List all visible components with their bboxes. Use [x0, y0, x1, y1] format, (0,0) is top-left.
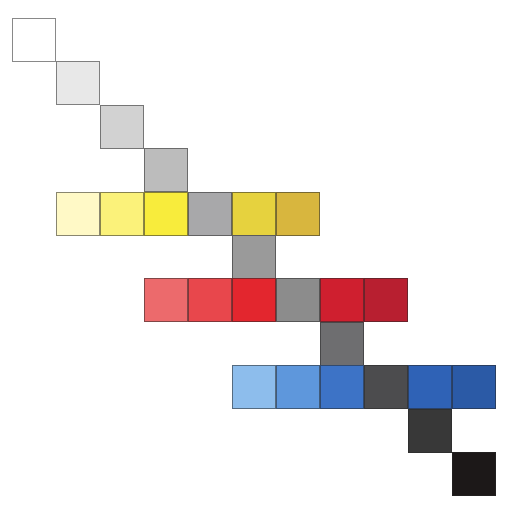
swatch-blue-pure [320, 365, 364, 409]
swatch-gray-3 [144, 148, 188, 192]
swatch-yellow-tint-2 [100, 192, 144, 236]
swatch-yellow-shade-1 [232, 192, 276, 236]
swatch-gray-10-black [452, 452, 496, 496]
swatch-blue-tint-1 [232, 365, 276, 409]
color-scale-diagram [0, 0, 513, 510]
swatch-red-pure [232, 278, 276, 322]
swatch-blue-shade-2 [452, 365, 496, 409]
swatch-gray-9 [408, 409, 452, 453]
swatch-yellow-tint-1 [56, 192, 100, 236]
swatch-gray-1 [56, 61, 100, 105]
swatch-gray-8 [364, 365, 408, 409]
swatch-yellow-shade-2 [276, 192, 320, 236]
swatch-gray-4 [188, 192, 232, 236]
swatch-red-tint-1 [144, 278, 188, 322]
swatch-gray-2 [100, 105, 144, 149]
swatch-blue-shade-1 [408, 365, 452, 409]
swatch-blue-tint-2 [276, 365, 320, 409]
swatch-red-shade-1 [320, 278, 364, 322]
swatch-red-tint-2 [188, 278, 232, 322]
swatch-yellow-pure [144, 192, 188, 236]
swatch-gray-0-white [12, 18, 56, 62]
swatch-gray-5 [232, 235, 276, 279]
swatch-red-shade-2 [364, 278, 408, 322]
swatch-gray-7 [320, 322, 364, 366]
swatch-gray-6 [276, 278, 320, 322]
